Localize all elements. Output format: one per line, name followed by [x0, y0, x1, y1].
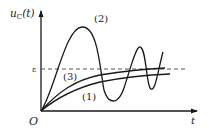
y-axis-label: uC(t)	[10, 7, 35, 21]
x-axis-label: t	[191, 115, 196, 126]
origin-label: O	[29, 115, 38, 128]
epsilon-label: ε	[32, 65, 36, 74]
rc-response-diagram: uC(t) O t ε (2) (3) (1)	[0, 0, 209, 130]
curve-3-label: (3)	[63, 71, 77, 82]
curve-1-label: (1)	[82, 91, 96, 102]
curve-2-label: (2)	[94, 13, 108, 24]
